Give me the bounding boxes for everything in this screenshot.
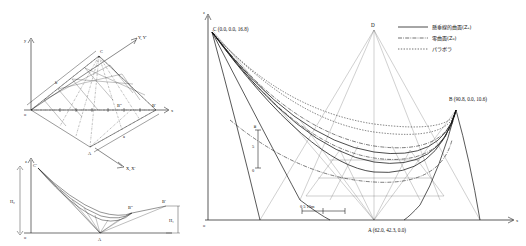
plan-oblique-axis-label: Y, Y' xyxy=(138,35,147,41)
scale-bar-h-label: 0 5 10m xyxy=(300,204,315,209)
elev-point-a-label: A xyxy=(98,237,102,242)
main-point-b-label: B (90.8, 0.0, 10.6) xyxy=(449,96,487,103)
main-curves-dashdot xyxy=(212,32,456,182)
elev-oblique-label: X, X′ xyxy=(126,166,136,172)
plan-outline xyxy=(31,56,156,147)
main-ruled-lines-a xyxy=(212,30,456,220)
plan-x-axis-label: x xyxy=(171,108,174,113)
legend-label-1: 零曲面(Z₀) xyxy=(432,35,456,42)
elev-h1-label: H₁ xyxy=(169,218,174,223)
legend: 懸垂線的曲面(Zₑ) 零曲面(Z₀) パラボラ xyxy=(398,24,471,53)
elevation-view-group: X, X′ H₀ H₁ z o C′ A xyxy=(10,148,180,242)
technical-drawing: y x Y, Y' o b a C A B″ B′ X, X′ xyxy=(0,0,526,246)
elev-point-bpp-label: B″ xyxy=(128,205,133,210)
elev-curve-family xyxy=(38,168,132,221)
plan-point-bpp-label: B″ xyxy=(117,103,122,108)
elev-origin-label: o xyxy=(24,235,27,240)
plan-point-bp-label: B′ xyxy=(152,103,156,108)
elev-point-bp-label: B′ xyxy=(162,199,166,204)
plan-y-axis-label: y xyxy=(24,38,27,43)
main-point-d-label: D xyxy=(371,22,375,28)
scale-bar-v-tick-0: 0 xyxy=(252,168,255,173)
main-origin-label: o xyxy=(203,223,206,228)
elev-right-chord xyxy=(100,206,166,233)
main-view-group: z x o xyxy=(203,10,519,234)
plan-view-group: y x Y, Y' o b a C A B″ B′ xyxy=(24,35,174,156)
main-point-c-label: C (0.0, 0.0, 16.8) xyxy=(213,26,249,33)
plan-dim-b-label: b xyxy=(55,80,58,85)
scale-bar-v-unit: m xyxy=(252,124,257,128)
plan-oblique-arrow xyxy=(131,38,137,44)
main-z-axis-label: z xyxy=(203,10,205,15)
main-point-a-label: A (62.0, 42.3, 0.0) xyxy=(368,227,406,234)
plan-point-a-label: A xyxy=(88,151,92,156)
legend-label-0: 懸垂線的曲面(Zₑ) xyxy=(432,24,471,31)
plan-origin-label: o xyxy=(24,112,27,117)
scale-bar-vertical: m 0 5 xyxy=(252,124,261,173)
elev-h0-label: H₀ xyxy=(10,199,15,204)
elev-right-tail xyxy=(132,206,166,213)
scale-bar-v-tick-1: 5 xyxy=(252,144,255,149)
scale-bar-horizontal: 0 5 10m xyxy=(300,204,345,214)
main-x-axis-label: x xyxy=(516,218,519,223)
plan-dim-a-label: a xyxy=(123,134,125,139)
elev-point-cp-label: C′ xyxy=(33,163,37,168)
main-curves-dotted xyxy=(212,32,456,134)
plan-oblique-axis xyxy=(31,40,136,110)
plan-grid xyxy=(44,65,145,126)
elev-web-lines xyxy=(38,168,131,233)
legend-label-2: パラボラ xyxy=(432,46,452,53)
elev-z-label: z xyxy=(25,159,27,164)
plan-point-c-label: C xyxy=(100,49,103,54)
elev-oblique-axis xyxy=(95,148,122,166)
plan-dim-a-line xyxy=(94,114,159,152)
figure-root: y x Y, Y' o b a C A B″ B′ X, X′ xyxy=(0,0,526,246)
plan-dashdot-family xyxy=(31,56,156,147)
